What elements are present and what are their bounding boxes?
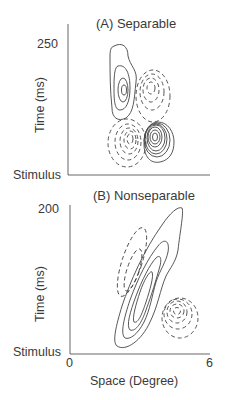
panel-b-contours: [111, 208, 198, 348]
panel-a-contours: [108, 44, 174, 167]
figure-plots: [0, 0, 226, 400]
